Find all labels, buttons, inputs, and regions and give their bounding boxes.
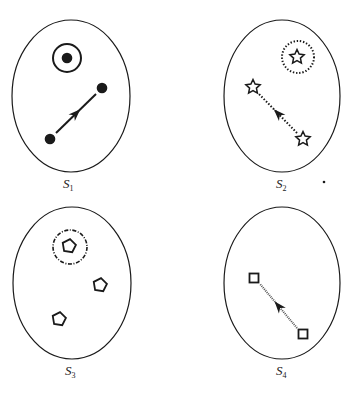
panel-s3: S3 — [13, 207, 131, 380]
filled-dot-icon — [97, 83, 108, 94]
s1-markers — [45, 44, 108, 144]
panel-s2: S2 — [224, 20, 340, 193]
star-icon — [290, 50, 304, 64]
s4-markers — [250, 274, 308, 339]
s1-ellipse — [12, 20, 130, 172]
s1-label: S1 — [63, 176, 74, 193]
s4-label: S4 — [276, 363, 287, 380]
pentagon-icon — [63, 239, 76, 252]
square-icon — [299, 330, 308, 339]
state-diagram-figure: S1 S2 S3 S4 — [0, 0, 355, 396]
square-icon — [250, 274, 259, 283]
pentagon-icon — [94, 278, 107, 291]
filled-dot-icon — [62, 53, 73, 64]
s3-markers — [53, 230, 107, 325]
s3-ellipse — [13, 207, 131, 359]
s2-markers — [246, 41, 314, 145]
s2-ellipse — [224, 20, 340, 172]
stray-dot — [323, 181, 326, 184]
pentagon-icon — [53, 312, 66, 325]
s2-label: S2 — [276, 176, 287, 193]
star-icon — [296, 132, 310, 146]
s3-label: S3 — [65, 363, 76, 380]
arrowhead-icon — [274, 109, 286, 121]
star-icon — [246, 80, 260, 94]
panel-s1: S1 — [12, 20, 130, 193]
filled-dot-icon — [45, 134, 56, 145]
s4-ellipse — [224, 207, 340, 359]
panel-s4: S4 — [224, 207, 340, 380]
